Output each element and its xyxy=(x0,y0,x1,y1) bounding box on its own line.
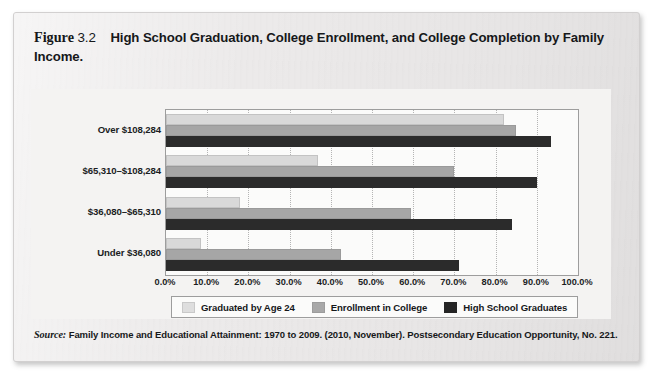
figure-card: Figure 3.2 High School Graduation, Colle… xyxy=(13,12,640,362)
x-axis-tick-label: 90.0% xyxy=(523,277,549,287)
x-axis-tick-label: 100.0% xyxy=(561,277,592,287)
figure-number: 3.2 xyxy=(78,30,96,45)
legend-label: Graduated by Age 24 xyxy=(201,302,295,313)
x-axis-tick-labels: 0.0%10.0%20.0%30.0%40.0%50.0%60.0%70.0%8… xyxy=(165,277,577,293)
legend-item[interactable]: High School Graduates xyxy=(444,302,567,313)
legend-item[interactable]: Enrollment in College xyxy=(312,302,428,313)
bar xyxy=(166,177,537,188)
y-axis-category-labels: Over $108,284$65,310–$108,284$36,080–$65… xyxy=(31,109,161,274)
y-axis-label: $65,310–$108,284 xyxy=(33,165,161,176)
x-axis-tick-label: 20.0% xyxy=(234,277,260,287)
bar xyxy=(166,136,551,147)
x-axis-tick-label: 40.0% xyxy=(317,277,343,287)
x-axis-tick-label: 50.0% xyxy=(358,277,384,287)
page-canvas: Figure 3.2 High School Graduation, Colle… xyxy=(0,0,655,374)
figure-title: Figure 3.2 High School Graduation, Colle… xyxy=(34,27,614,66)
x-axis-tick-label: 80.0% xyxy=(482,277,508,287)
legend-swatch-icon xyxy=(182,302,195,313)
y-axis-label: Under $36,080 xyxy=(33,247,161,258)
figure-label: Figure xyxy=(34,29,74,45)
bar xyxy=(166,260,459,271)
chart-legend: Graduated by Age 24Enrollment in College… xyxy=(171,296,578,318)
bar xyxy=(166,249,341,260)
bar-group xyxy=(166,234,578,275)
bar-group xyxy=(166,110,578,151)
plot-area xyxy=(165,109,579,276)
x-axis-tick-label: 70.0% xyxy=(440,277,466,287)
source-label: Source: xyxy=(34,329,66,340)
legend-label: Enrollment in College xyxy=(331,302,428,313)
bar-group xyxy=(166,193,578,234)
bar xyxy=(166,125,516,136)
figure-title-text: High School Graduation, College Enrollme… xyxy=(34,30,604,64)
legend-item[interactable]: Graduated by Age 24 xyxy=(182,302,295,313)
chart-panel: Over $108,284$65,310–$108,284$36,080–$65… xyxy=(31,89,611,319)
bar xyxy=(166,238,201,249)
legend-swatch-icon xyxy=(312,302,325,313)
x-axis-tick-label: 30.0% xyxy=(276,277,302,287)
y-axis-label: $36,080–$65,310 xyxy=(33,206,161,217)
bar xyxy=(166,219,512,230)
x-axis-tick-label: 10.0% xyxy=(193,277,219,287)
legend-label: High School Graduates xyxy=(463,302,567,313)
legend-swatch-icon xyxy=(444,302,457,313)
bar-group xyxy=(166,151,578,192)
x-axis-tick-label: 60.0% xyxy=(399,277,425,287)
y-axis-label: Over $108,284 xyxy=(33,124,161,135)
bar xyxy=(166,166,454,177)
source-text: Family Income and Educational Attainment… xyxy=(69,329,618,340)
figure-source-note: Source: Family Income and Educational At… xyxy=(34,327,620,342)
bar xyxy=(166,114,504,125)
bar xyxy=(166,208,411,219)
x-axis-tick-label: 0.0% xyxy=(155,277,176,287)
bar xyxy=(166,155,318,166)
bar xyxy=(166,197,240,208)
